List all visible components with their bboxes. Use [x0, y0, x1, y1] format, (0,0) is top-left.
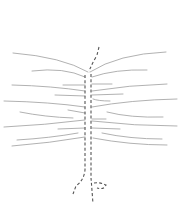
strand-left	[17, 133, 78, 140]
strand-right	[92, 70, 147, 77]
strand-left	[13, 53, 88, 72]
strand-left	[4, 120, 85, 127]
strand-right	[92, 94, 123, 95]
strand-right	[102, 133, 162, 139]
strand-right	[90, 52, 166, 72]
stem-group	[73, 47, 106, 204]
strand-right	[93, 99, 110, 101]
strand-right	[107, 112, 163, 117]
strand-left	[58, 128, 85, 129]
strand-left	[12, 85, 85, 91]
strand-left	[32, 70, 85, 77]
strand-right	[92, 84, 167, 91]
strand-right	[92, 128, 120, 129]
stem-left	[73, 75, 85, 194]
strand-left	[4, 101, 85, 107]
strand-right	[92, 99, 177, 107]
stem-hook	[94, 183, 106, 189]
strand-right	[92, 121, 177, 126]
strand-left	[68, 110, 85, 113]
stem-right	[91, 74, 93, 204]
strand-left	[55, 95, 85, 96]
sketch-canvas	[0, 0, 189, 211]
strand-left	[12, 137, 85, 146]
strand-left	[20, 112, 73, 118]
